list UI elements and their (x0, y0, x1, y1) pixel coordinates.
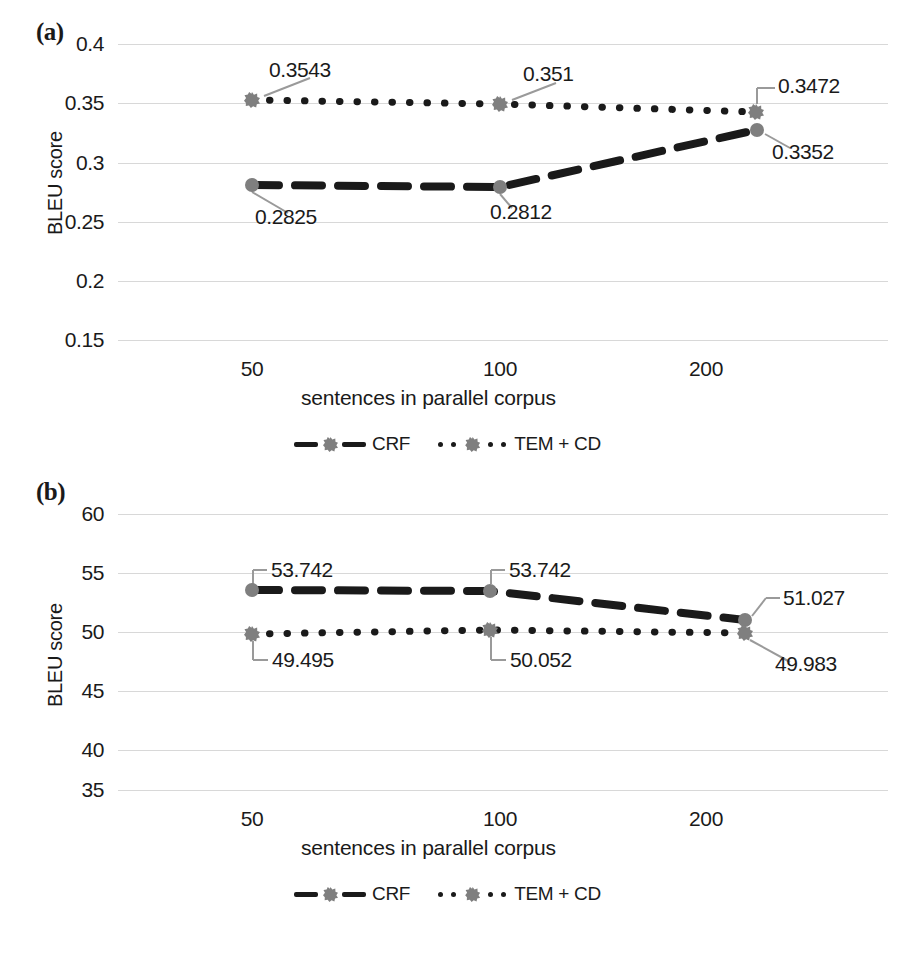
legend-key-tem-cd-dotted-line (436, 436, 508, 452)
series-tem-cd-line-b (252, 630, 745, 634)
data-label-crf-50-a: 0.2825 (255, 205, 317, 229)
data-label-crf-100-a: 0.2812 (490, 200, 552, 224)
data-label-tem-50-a: 0.3543 (269, 58, 331, 82)
panel-b-legend: CRF TEM + CD (294, 883, 601, 905)
chart-panel-b: (b) BLEU score 60 55 50 45 40 35 50 100 … (0, 470, 904, 957)
panel-b-x-axis-title: sentences in parallel corpus (301, 836, 556, 860)
legend-item-tem-cd[interactable]: TEM + CD (436, 433, 601, 455)
legend-key-tem-cd-dotted-line (436, 886, 508, 902)
data-point-marker (493, 180, 507, 194)
data-label-crf-200-a: 0.3352 (772, 140, 834, 164)
legend-label-tem-cd: TEM + CD (514, 433, 601, 455)
data-label-tem-200-b: 49.983 (775, 652, 837, 676)
panel-a-legend: CRF TEM + CD (294, 433, 601, 455)
legend-item-crf[interactable]: CRF (294, 883, 410, 905)
data-point-marker (245, 178, 259, 192)
legend-key-crf-dashed-line (294, 886, 366, 902)
data-label-tem-100-b: 50.052 (510, 648, 572, 672)
data-label-tem-200-a: 0.3472 (778, 74, 840, 98)
data-point-marker (750, 123, 764, 137)
data-label-crf-100-b: 53.742 (509, 558, 571, 582)
legend-label-crf: CRF (372, 433, 410, 455)
legend-item-tem-cd[interactable]: TEM + CD (436, 883, 601, 905)
data-point-marker (738, 613, 752, 627)
leader-line (752, 598, 766, 616)
data-label-crf-200-b: 51.027 (783, 586, 845, 610)
series-crf-line-a (252, 130, 756, 187)
panel-a-x-axis-title: sentences in parallel corpus (301, 386, 556, 410)
data-label-tem-100-a: 0.351 (523, 62, 574, 86)
series-crf-line-b (252, 590, 745, 620)
data-label-tem-50-b: 49.495 (272, 648, 334, 672)
data-point-marker (245, 583, 259, 597)
legend-label-tem-cd: TEM + CD (514, 883, 601, 905)
legend-item-crf[interactable]: CRF (294, 433, 410, 455)
data-point-marker (483, 584, 497, 598)
chart-panel-a: (a) BLEU score 0.4 0.35 0.3 0.25 0.2 0.1… (0, 0, 904, 470)
legend-key-crf-dashed-line (294, 436, 366, 452)
legend-label-crf: CRF (372, 883, 410, 905)
data-label-crf-50-b: 53.742 (271, 558, 333, 582)
